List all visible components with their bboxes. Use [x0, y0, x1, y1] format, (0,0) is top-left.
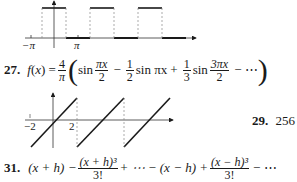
problem-31: 31. (x + h) − (x + h)³ 3! + ⋯ − (x − h) …	[4, 152, 277, 182]
problem-number: 29.	[252, 113, 268, 128]
right-paren: )	[258, 60, 268, 80]
left-paren: (	[68, 60, 78, 80]
lhs: f(x) =	[27, 62, 56, 78]
square-wave-graph	[0, 0, 297, 50]
x-label-two: 2	[69, 120, 75, 132]
problem-number: 31.	[4, 160, 20, 176]
problem-29: 29. 256	[252, 113, 295, 129]
answer: 256	[276, 113, 296, 128]
problem-27: 27. f(x) = 4 π ( sin πx 2 − 1 2 sin πx +…	[4, 50, 268, 90]
x-label-neg-two: −2	[24, 120, 36, 132]
coefficient-fraction: 4 π	[58, 58, 66, 83]
problem-number: 27.	[4, 62, 20, 78]
